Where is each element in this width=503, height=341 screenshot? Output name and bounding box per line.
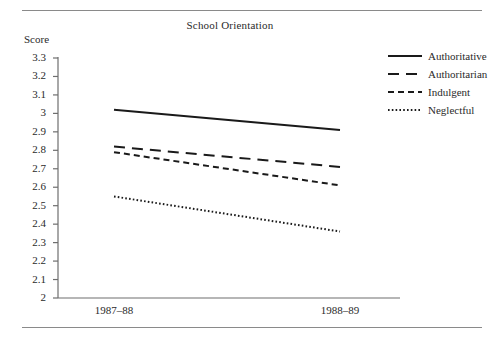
legend-label: Authoritative bbox=[428, 50, 487, 62]
y-tick-label: 2 bbox=[18, 292, 46, 303]
figure-container: School Orientation Score 3.33.23.132.92.… bbox=[0, 0, 503, 341]
legend: AuthoritativeAuthoritarianIndulgentNegle… bbox=[388, 48, 500, 120]
y-tick-label: 3 bbox=[18, 107, 46, 118]
legend-label: Authoritarian bbox=[428, 68, 487, 80]
legend-label: Neglectful bbox=[428, 104, 474, 116]
legend-swatch-long-dash-icon bbox=[388, 68, 422, 79]
legend-label: Indulgent bbox=[428, 86, 470, 98]
x-tick-label: 1987–88 bbox=[69, 304, 159, 316]
y-tick-label: 2.7 bbox=[18, 163, 46, 174]
y-tick-label: 2.2 bbox=[18, 255, 46, 266]
legend-item[interactable]: Authoritarian bbox=[388, 66, 500, 81]
y-tick-label: 2.3 bbox=[18, 237, 46, 248]
y-axis-tick-marks bbox=[53, 58, 58, 298]
series-line-neglectful bbox=[114, 196, 340, 231]
y-tick-label: 2.5 bbox=[18, 200, 46, 211]
legend-item[interactable]: Authoritative bbox=[388, 48, 500, 63]
legend-swatch-dotted-icon bbox=[388, 104, 422, 115]
y-tick-label: 2.9 bbox=[18, 126, 46, 137]
y-tick-label: 3.3 bbox=[18, 52, 46, 63]
y-tick-label: 2.4 bbox=[18, 218, 46, 229]
legend-item[interactable]: Neglectful bbox=[388, 102, 500, 117]
y-tick-label: 2.8 bbox=[18, 144, 46, 155]
y-tick-label: 3.2 bbox=[18, 70, 46, 81]
legend-swatch-solid-icon bbox=[388, 50, 422, 61]
y-tick-label: 2.1 bbox=[18, 274, 46, 285]
x-tick-label: 1988–89 bbox=[295, 304, 385, 316]
axis-lines bbox=[58, 57, 400, 298]
legend-item[interactable]: Indulgent bbox=[388, 84, 500, 99]
y-tick-label: 3.1 bbox=[18, 89, 46, 100]
series-lines bbox=[114, 110, 340, 232]
y-tick-label: 2.6 bbox=[18, 181, 46, 192]
legend-swatch-short-dash-icon bbox=[388, 86, 422, 97]
series-line-authoritative bbox=[114, 110, 340, 130]
